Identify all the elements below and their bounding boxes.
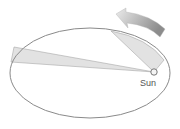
motion-arrow-icon — [116, 8, 165, 37]
orbit-ellipse — [10, 28, 170, 118]
sun-icon — [151, 69, 157, 75]
kepler-diagram: Sun — [0, 0, 180, 129]
sun-label: Sun — [140, 78, 156, 88]
